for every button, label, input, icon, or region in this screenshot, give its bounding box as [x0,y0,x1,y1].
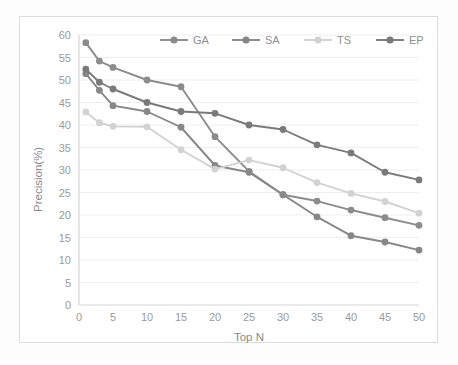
data-point-ga [416,222,423,229]
data-point-ga [96,58,103,65]
data-point-sa [144,108,151,115]
legend-marker-ep [386,36,393,43]
data-point-sa [246,169,253,176]
data-point-ep [144,99,151,106]
data-point-ts [212,166,219,173]
precision-vs-topn-line-chart: 051015202530354045505560 051015202530354… [0,0,458,365]
y-tick-label: 50 [59,74,71,86]
y-tick-label: 5 [65,277,71,289]
x-tick-label: 40 [345,311,357,323]
data-point-ts [178,146,185,153]
legend-label-sa: SA [265,34,280,46]
y-tick-label: 0 [65,299,71,311]
chart-figure: 051015202530354045505560 051015202530354… [0,0,458,365]
data-point-ts [348,190,355,197]
series-group [82,39,422,253]
x-tick-label: 35 [311,311,323,323]
y-tick-label: 15 [59,232,71,244]
data-point-ep [348,150,355,157]
x-tick-label: 15 [175,311,187,323]
legend-label-ga: GA [193,34,210,46]
data-point-ep [416,177,423,184]
y-tick-label: 60 [59,29,71,41]
data-point-sa [178,124,185,131]
legend-label-ep: EP [409,34,424,46]
data-point-ts [144,123,151,130]
x-tick-label: 30 [277,311,289,323]
x-tick-label: 0 [76,311,82,323]
legend-marker-ga [170,36,177,43]
data-point-ga [178,83,185,90]
y-tick-label: 20 [59,209,71,221]
x-tick-label: 25 [243,311,255,323]
y-tick-label: 30 [59,164,71,176]
y-tick-label: 40 [59,119,71,131]
y-tick-label: 10 [59,254,71,266]
data-point-ts [246,157,253,164]
data-point-sa [314,213,321,220]
y-axis-tick-labels: 051015202530354045505560 [59,29,71,311]
data-point-ep [212,110,219,117]
data-point-ts [416,210,423,217]
data-point-ep [178,108,185,115]
data-point-sa [416,247,423,254]
data-point-ts [314,179,321,186]
x-tick-label: 10 [141,311,153,323]
y-tick-label: 45 [59,97,71,109]
data-point-ts [82,109,89,116]
data-point-ga [314,198,321,205]
legend-marker-ts [314,36,321,43]
legend-marker-sa [242,36,249,43]
x-tick-label: 50 [413,311,425,323]
x-axis-tick-labels: 05101520253035404550 [76,311,425,323]
x-tick-label: 5 [110,311,116,323]
data-point-ep [382,169,389,176]
data-point-ts [382,198,389,205]
data-point-ep [280,126,287,133]
data-point-ep [246,122,253,129]
data-point-ga [144,77,151,84]
data-point-sa [348,232,355,239]
data-point-ga [382,214,389,221]
data-point-ga [348,207,355,214]
data-point-sa [382,239,389,246]
chart-legend: GASATSEP [160,34,424,46]
y-tick-label: 25 [59,187,71,199]
x-tick-label: 20 [209,311,221,323]
y-tick-label: 35 [59,142,71,154]
x-axis-title: Top N [234,331,264,343]
data-point-ep [82,66,89,73]
x-tick-label: 45 [379,311,391,323]
data-point-ga [212,133,219,140]
data-point-ga [110,64,117,71]
data-point-ep [110,86,117,93]
data-point-ep [96,79,103,86]
y-axis-title: Precision(%) [32,147,44,212]
data-point-ga [82,39,89,46]
data-point-ts [280,164,287,171]
data-point-sa [110,102,117,109]
y-tick-label: 55 [59,52,71,64]
data-point-ep [314,141,321,148]
series-line-sa [86,74,419,250]
data-point-ts [96,119,103,126]
data-point-sa [96,87,103,94]
legend-label-ts: TS [337,34,351,46]
data-point-sa [280,191,287,198]
data-point-ts [110,123,117,130]
